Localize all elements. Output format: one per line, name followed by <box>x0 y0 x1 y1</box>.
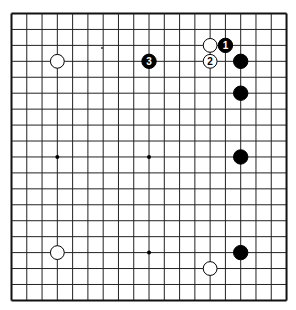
move-number: 3 <box>146 56 152 67</box>
white-stone <box>203 38 217 52</box>
black-stone <box>234 54 248 68</box>
go-board: 312 <box>0 0 296 310</box>
star-point <box>147 155 151 159</box>
move-number: 1 <box>223 40 229 51</box>
black-stone-move-3: 3 <box>142 54 156 68</box>
white-stone <box>203 262 217 276</box>
stray-marks <box>101 47 103 49</box>
black-stone <box>234 245 248 259</box>
white-stone-move-2: 2 <box>203 54 217 68</box>
move-number: 2 <box>207 56 213 67</box>
white-stone <box>50 54 64 68</box>
black-stone <box>234 86 248 100</box>
black-stone-move-1: 1 <box>218 38 232 52</box>
black-stone <box>234 150 248 164</box>
star-point <box>55 155 59 159</box>
stray-dot <box>101 47 103 49</box>
white-stone <box>50 246 64 260</box>
star-point <box>147 251 151 255</box>
